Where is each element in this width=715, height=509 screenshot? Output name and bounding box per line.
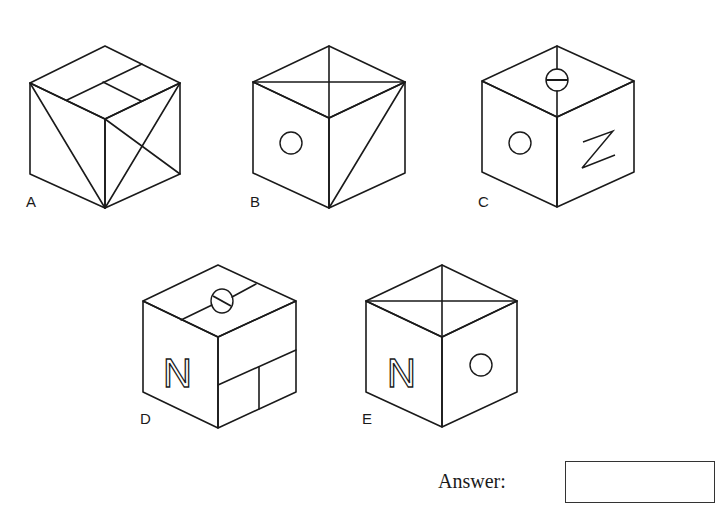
circle-icon [470,354,492,376]
cube-e-right-face [442,301,517,427]
z-glyph-icon [582,131,615,168]
cube-d-right-face [218,301,296,428]
cube-a: A [26,46,180,210]
cube-d-label: D [140,410,151,427]
cube-d-top-face [143,265,296,337]
cube-c-label: C [478,193,489,210]
cube-d-top-line-right [232,284,256,297]
cube-e: N E [362,265,517,427]
cube-c-right-face [557,81,634,207]
circle-icon [509,132,531,154]
cube-c-top-face [482,46,634,117]
cube-b-left-face [253,82,329,208]
cube-b-right-diagonal [329,82,405,208]
cube-d: N D [140,265,296,428]
cube-a-top-line-2 [103,82,141,101]
n-glyph-icon: N [387,351,416,395]
answer-input[interactable] [565,461,715,503]
slashed-circle-bar [213,296,231,306]
cube-c: C [478,46,634,210]
cube-c-left-face [482,81,557,207]
circle-icon [280,132,302,154]
answer-label: Answer: [438,470,506,493]
n-glyph-icon: N [163,351,192,395]
cube-b-label: B [250,193,260,210]
cube-d-top-line-left [181,305,212,320]
cube-d-right-horizontal [218,350,296,385]
cube-a-label: A [26,193,36,210]
cube-e-label: E [362,410,372,427]
cube-b: B [250,46,405,210]
